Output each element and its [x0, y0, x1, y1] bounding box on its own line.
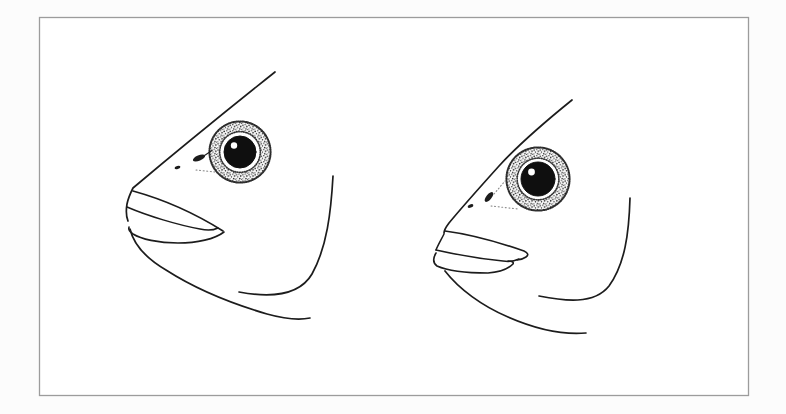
right-eye — [506, 147, 570, 211]
right-eye-pupil — [521, 162, 555, 196]
left-eye — [209, 121, 271, 183]
fish-illustration — [0, 0, 786, 414]
right-eye-highlight — [528, 169, 535, 176]
figure-page — [0, 0, 786, 414]
figure-frame — [40, 18, 749, 396]
left-eye-highlight — [231, 142, 237, 148]
left-eye-pupil — [224, 136, 256, 168]
